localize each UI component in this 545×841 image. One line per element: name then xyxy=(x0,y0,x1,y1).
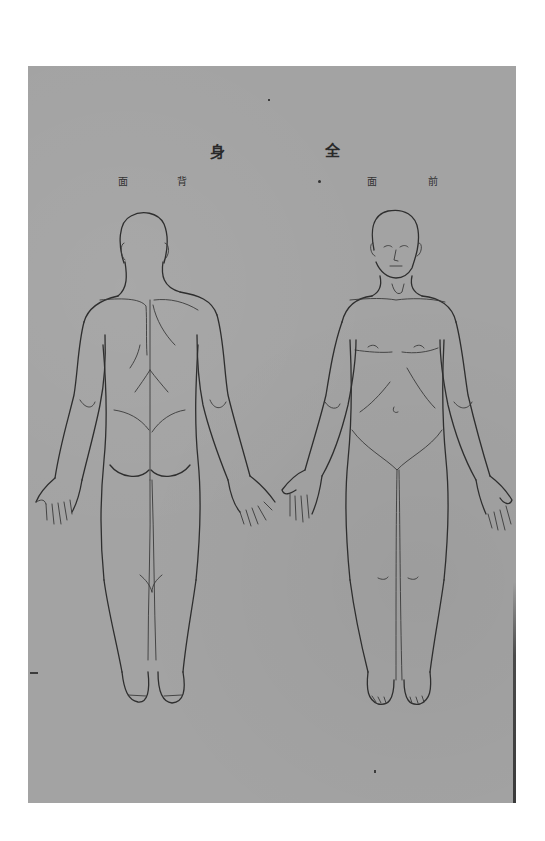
back-view-figure xyxy=(36,213,275,703)
front-view-figure xyxy=(282,210,512,704)
body-figures xyxy=(0,0,545,841)
